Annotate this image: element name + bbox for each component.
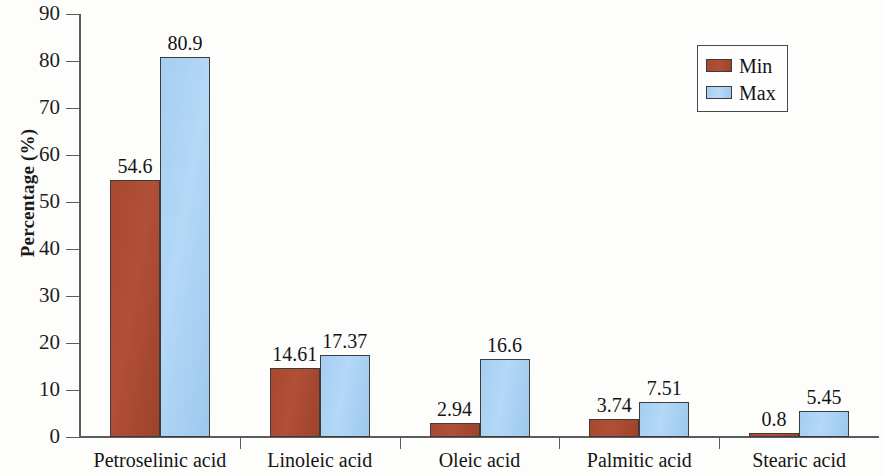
legend-swatch-max-icon <box>706 86 732 99</box>
y-tick-label-40: 40 <box>8 238 60 259</box>
y-tick-mark-70 <box>66 108 79 109</box>
y-tick-label-70: 70 <box>8 97 60 118</box>
bar-value-label-max-1: 17.37 <box>303 331 387 351</box>
bar-max-1[interactable] <box>320 355 370 437</box>
legend-item-max[interactable]: Max <box>706 79 787 106</box>
legend-swatch-min-icon <box>706 59 732 72</box>
y-tick-mark-80 <box>66 61 79 62</box>
x-tick-mark-3 <box>719 437 720 449</box>
bar-max-0[interactable] <box>160 57 210 437</box>
x-tick-mark-2 <box>559 437 560 449</box>
bar-value-label-max-3: 7.51 <box>622 378 706 398</box>
legend-item-min[interactable]: Min <box>706 52 787 79</box>
bar-max-3[interactable] <box>639 402 689 437</box>
bar-value-label-max-2: 16.6 <box>463 335 547 355</box>
bar-min-0[interactable] <box>110 180 160 437</box>
bar-min-3[interactable] <box>589 419 639 437</box>
y-tick-label-50: 50 <box>8 191 60 212</box>
y-tick-label-60: 60 <box>8 144 60 165</box>
legend-label-max: Max <box>739 83 776 103</box>
x-tick-mark-1 <box>400 437 401 449</box>
y-axis-ticks: 0102030405060708090 <box>0 0 79 476</box>
bar-value-label-max-4: 5.45 <box>782 387 866 407</box>
bar-max-4[interactable] <box>799 411 849 437</box>
x-axis-label-4: Stearic acid <box>719 449 879 471</box>
x-axis-labels: Petroselinic acidLinoleic acidOleic acid… <box>80 449 879 476</box>
y-tick-label-30: 30 <box>8 285 60 306</box>
y-tick-label-20: 20 <box>8 332 60 353</box>
bar-min-2[interactable] <box>430 423 480 437</box>
y-tick-label-90: 90 <box>8 3 60 24</box>
y-tick-mark-30 <box>66 296 79 297</box>
y-tick-label-10: 10 <box>8 379 60 400</box>
y-tick-mark-10 <box>66 390 79 391</box>
y-tick-mark-0 <box>66 437 79 438</box>
y-tick-mark-40 <box>66 249 79 250</box>
y-tick-mark-50 <box>66 202 79 203</box>
y-tick-mark-60 <box>66 155 79 156</box>
x-axis-label-3: Palmitic acid <box>559 449 719 471</box>
bar-min-1[interactable] <box>270 368 320 437</box>
bar-value-label-max-0: 80.9 <box>143 33 227 53</box>
x-axis-label-2: Oleic acid <box>400 449 560 471</box>
x-tick-mark-0 <box>240 437 241 449</box>
x-axis-label-0: Petroselinic acid <box>80 449 240 471</box>
legend: Min Max <box>697 45 788 112</box>
y-tick-mark-90 <box>66 14 79 15</box>
bar-max-2[interactable] <box>480 359 530 437</box>
y-tick-label-0: 0 <box>8 426 60 447</box>
y-tick-label-80: 80 <box>8 50 60 71</box>
x-axis-label-1: Linoleic acid <box>240 449 400 471</box>
bar-chart: Percentage (%) 0102030405060708090 54.68… <box>0 0 885 476</box>
y-tick-mark-20 <box>66 343 79 344</box>
legend-label-min: Min <box>739 56 772 76</box>
bar-min-4[interactable] <box>749 433 799 437</box>
